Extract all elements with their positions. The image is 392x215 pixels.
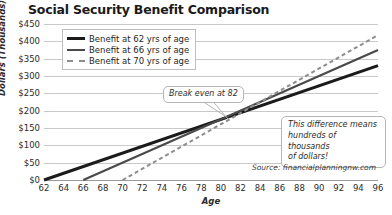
x-tick-label: 82	[235, 183, 246, 193]
y-tick-label: $150	[18, 123, 40, 133]
x-tick-label: 72	[137, 183, 148, 193]
x-tick-label: 88	[294, 183, 305, 193]
callout-difference-line-2: hundreds of thousands	[288, 131, 380, 153]
y-tick-label: $200	[18, 106, 40, 116]
legend-swatch-dashed-line-icon	[67, 56, 85, 66]
x-tick-label: 84	[255, 183, 266, 193]
x-tick-label: 68	[98, 183, 109, 193]
source-attribution: Source: financialplanningnw.com	[252, 163, 376, 172]
callout-break-even-text: Break even at 82	[169, 89, 238, 98]
x-tick-label: 76	[176, 183, 187, 193]
gridline	[44, 180, 378, 181]
callout-break-even: Break even at 82	[163, 86, 244, 103]
legend-label: Benefit at 66 yrs of age	[89, 45, 189, 55]
x-tick-label: 66	[78, 183, 89, 193]
x-tick-label: 62	[39, 183, 50, 193]
legend-label: Benefit at 62 yrs of age	[89, 34, 189, 44]
y-axis-label: Dollars (Thousands)	[0, 0, 7, 96]
x-tick-label: 94	[353, 183, 364, 193]
page-title: Social Security Benefit Comparison	[28, 2, 269, 17]
x-tick-label: 80	[215, 183, 226, 193]
legend-swatch-line-icon	[67, 45, 85, 55]
y-tick-label: $100	[18, 140, 40, 150]
callout-difference-line-1: This difference means	[288, 120, 380, 131]
y-tick-label: $300	[18, 71, 40, 81]
legend-item-70: Benefit at 70 yrs of age	[67, 55, 189, 66]
callout-difference-line-3: of dollars!	[288, 152, 380, 163]
y-tick-label: $350	[18, 54, 40, 64]
legend-swatch-line-icon	[67, 34, 85, 44]
x-tick-label: 78	[196, 183, 207, 193]
x-tick-label: 74	[156, 183, 167, 193]
x-tick-label: 96	[373, 183, 384, 193]
y-tick-label: $450	[18, 19, 40, 29]
chart-legend: Benefit at 62 yrs of age Benefit at 66 y…	[62, 29, 196, 70]
x-axis-label: Age	[44, 196, 378, 206]
x-tick-label: 90	[314, 183, 325, 193]
legend-item-62: Benefit at 62 yrs of age	[67, 33, 189, 44]
callout-difference: This difference means hundreds of thousa…	[281, 116, 386, 168]
x-tick-label: 86	[274, 183, 285, 193]
y-tick-label: $250	[18, 88, 40, 98]
legend-item-66: Benefit at 66 yrs of age	[67, 44, 189, 55]
x-tick-label: 92	[333, 183, 344, 193]
legend-label: Benefit at 70 yrs of age	[89, 56, 189, 66]
y-tick-label: $50	[24, 158, 40, 168]
x-tick-label: 64	[58, 183, 69, 193]
chart-container: Social Security Benefit Comparison Dolla…	[0, 0, 392, 215]
x-tick-label: 70	[117, 183, 128, 193]
y-tick-label: $400	[18, 36, 40, 46]
